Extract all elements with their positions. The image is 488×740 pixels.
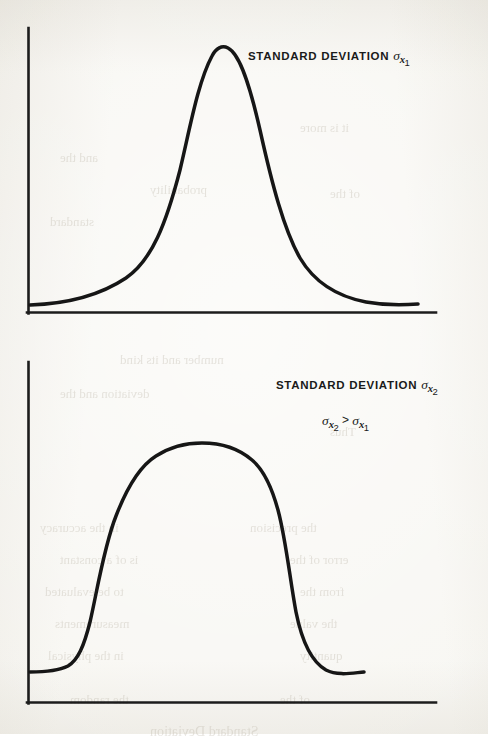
inequality-right-sigma: σ: [352, 413, 359, 428]
label-sigma-inequality: σx2>σx1: [322, 413, 369, 433]
sigma-subscript-index: 2: [433, 386, 439, 397]
sigma-symbol: σ: [393, 48, 400, 63]
label-prefix-text: STANDARD DEVIATION: [276, 379, 421, 391]
inequality-left-sigma: σ: [322, 413, 329, 428]
label-standard-deviation-sigma-x1: STANDARD DEVIATION σx1: [248, 48, 411, 68]
figure-standard-deviation-sigma-x1: STANDARD DEVIATION σx1: [0, 0, 488, 340]
sigma-subscript-index: 1: [405, 57, 411, 68]
chart-gaussian-wide-plateau: [0, 340, 488, 734]
sigma-symbol: σ: [421, 377, 428, 392]
gaussian-plateau-curve: [30, 443, 364, 674]
inequality-right-subscript-index: 1: [364, 422, 370, 433]
inequality-left-subscript-index: 2: [333, 422, 339, 433]
gaussian-narrow-curve: [30, 47, 418, 305]
inequality-operator: >: [342, 413, 349, 427]
figure-standard-deviation-sigma-x2: STANDARD DEVIATION σx2 σx2>σx1: [0, 340, 488, 734]
label-prefix-text: STANDARD DEVIATION: [248, 50, 393, 62]
chart-gaussian-narrow: [0, 0, 488, 340]
label-standard-deviation-sigma-x2: STANDARD DEVIATION σx2: [276, 377, 439, 397]
